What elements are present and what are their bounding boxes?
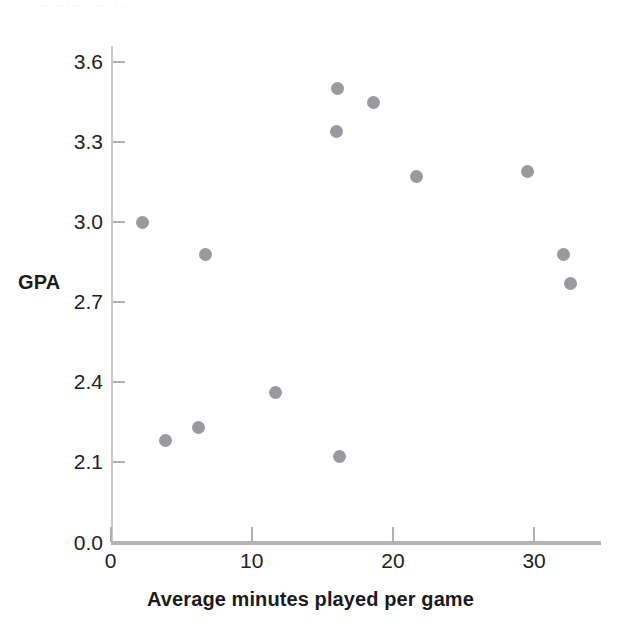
data-point	[331, 82, 344, 95]
data-point	[159, 434, 172, 447]
y-axis-tick-label: 3.3	[43, 131, 103, 152]
y-axis-tick	[113, 461, 125, 463]
x-axis-tick	[392, 527, 394, 542]
y-axis-tick	[113, 141, 125, 143]
data-point	[199, 248, 212, 261]
y-axis-tick-label: 0.0	[43, 532, 103, 553]
y-axis-tick	[113, 301, 125, 303]
x-axis-line	[111, 541, 601, 545]
x-axis-tick	[533, 527, 535, 542]
data-point	[192, 421, 205, 434]
y-axis-tick-label: 2.1	[43, 451, 103, 472]
data-point	[410, 170, 423, 183]
plot-area: 0.02.12.42.73.03.33.60102030	[0, 0, 621, 628]
x-axis-tick	[251, 527, 253, 542]
data-point	[333, 450, 346, 463]
scatter-plot-figure: ... .. . .. .. .. . . .. GPA Average min…	[0, 0, 621, 628]
x-axis-tick-label: 0	[86, 549, 136, 572]
y-axis-tick-label: 2.7	[43, 291, 103, 312]
y-axis-tick-label: 2.4	[43, 371, 103, 392]
x-axis-tick-label: 10	[227, 549, 277, 572]
y-axis-tick	[113, 221, 125, 223]
x-axis-tick-label: 30	[509, 549, 559, 572]
y-axis-tick-label: 3.6	[43, 51, 103, 72]
x-axis-title: Average minutes played per game	[0, 588, 621, 610]
y-axis-tick	[113, 61, 125, 63]
data-point	[557, 248, 570, 261]
y-axis-tick	[113, 381, 125, 383]
page-bleed-text: ... .. . .. .. .. . . ..	[40, 0, 580, 10]
y-axis-tick-label: 3.0	[43, 211, 103, 232]
x-axis-tick-label: 20	[368, 549, 418, 572]
data-point	[136, 216, 149, 229]
data-point	[330, 125, 343, 138]
data-point	[564, 277, 577, 290]
data-point	[521, 165, 534, 178]
data-point	[269, 386, 282, 399]
y-axis-line	[111, 46, 113, 544]
y-axis-title: GPA	[18, 271, 60, 293]
data-point	[367, 96, 380, 109]
